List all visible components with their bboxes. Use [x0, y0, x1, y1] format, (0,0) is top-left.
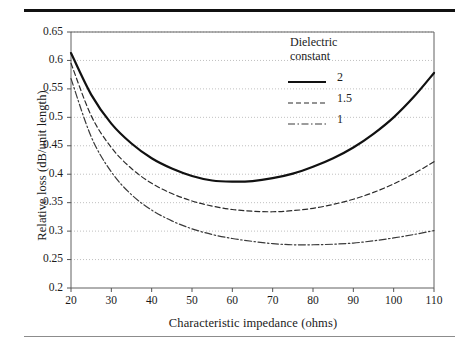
x-tick-label: 80	[293, 294, 333, 306]
y-axis-title: Relative loss (dB/unit length)	[35, 38, 50, 294]
legend-label: 2	[328, 70, 343, 85]
x-tick-label: 70	[253, 294, 293, 306]
legend-swatch-icon	[286, 115, 328, 125]
x-tick-label: 50	[172, 294, 212, 306]
x-axis-title: Characteristic impedance (ohms)	[71, 316, 435, 331]
x-tick-label: 40	[132, 294, 172, 306]
legend-entry-2: 2	[286, 67, 408, 88]
x-tick-label: 110	[414, 294, 454, 306]
legend-entry-1.5: 1.5	[286, 88, 408, 109]
legend-swatch-icon	[286, 94, 328, 104]
legend-label: 1	[328, 112, 343, 127]
legend-title: Dielectricconstant	[286, 36, 408, 63]
legend: Dielectricconstant 21.51	[286, 36, 408, 130]
legend-label: 1.5	[328, 91, 352, 106]
legend-entries: 21.51	[286, 67, 408, 130]
y-tick-label: 0.65	[23, 25, 63, 37]
x-tick-label: 60	[212, 294, 252, 306]
legend-swatch-icon	[286, 73, 328, 83]
x-tick-label: 30	[91, 294, 131, 306]
x-tick-label: 90	[333, 294, 373, 306]
figure-container: 0.20.250.30.350.40.450.50.550.60.65 2030…	[0, 0, 463, 348]
x-tick-label: 20	[51, 294, 91, 306]
x-tick-label: 100	[374, 294, 414, 306]
legend-entry-1: 1	[286, 109, 408, 130]
